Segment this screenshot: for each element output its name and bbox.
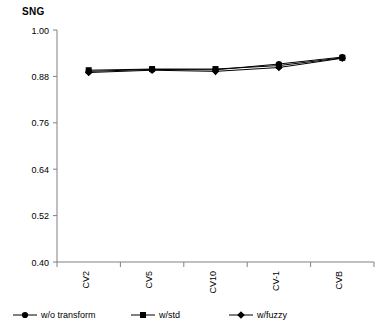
legend-label: w/fuzzy (257, 311, 287, 320)
x-axis-tick-label: CV5 (144, 271, 154, 289)
y-axis-tick-label: 0.88 (31, 72, 49, 82)
line-chart-plot: 1.000.880.760.640.520.40 CV2CV5CV10CV-1C… (0, 0, 385, 330)
legend-label: w/std (159, 311, 180, 320)
data-series (85, 54, 346, 76)
legend-label: w/o transform (41, 311, 96, 320)
x-axis-tick-label: CVB (334, 271, 344, 290)
y-axis-tick-label: 0.52 (31, 211, 49, 221)
legend-marker (130, 309, 156, 321)
y-axis: 1.000.880.760.640.520.40 (31, 26, 57, 268)
y-axis-tick-label: 0.40 (31, 258, 49, 268)
circle-marker-icon (22, 312, 28, 318)
data-series-group (85, 54, 346, 76)
chart-legend: w/o transformw/stdw/fuzzy (0, 306, 385, 328)
legend-marker (12, 309, 38, 321)
x-axis-tick-label: CV10 (208, 271, 218, 294)
legend-item[interactable]: w/o transform (12, 306, 96, 324)
legend-item[interactable]: w/std (130, 306, 180, 324)
y-axis-tick-label: 1.00 (31, 26, 49, 36)
chart-container: SNG 1.000.880.760.640.520.40 CV2CV5CV10C… (0, 0, 385, 330)
diamond-marker-icon (237, 311, 245, 319)
square-marker-icon (140, 312, 146, 318)
legend-item[interactable]: w/fuzzy (228, 306, 287, 324)
x-axis: CV2CV5CV10CV-1CVB (57, 262, 374, 294)
legend-marker (228, 309, 254, 321)
y-axis-tick-label: 0.76 (31, 118, 49, 128)
x-axis-tick-label: CV-1 (271, 271, 281, 291)
x-axis-tick-label: CV2 (81, 271, 91, 289)
y-axis-tick-label: 0.64 (31, 165, 49, 175)
